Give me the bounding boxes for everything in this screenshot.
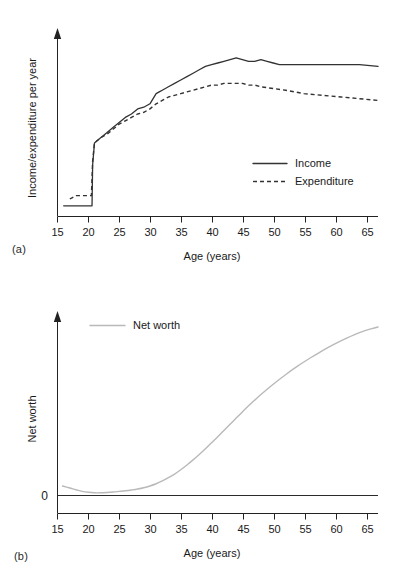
figure-container: 15 20 25 30 35 40 45 50 55 60 65 Age (ye… (0, 0, 397, 583)
x-tick-label: 35 (175, 523, 187, 535)
x-tick-label: 55 (299, 523, 311, 535)
legend-label-income: Income (295, 157, 331, 169)
chart-panel-a: 15 20 25 30 35 40 45 50 55 60 65 Age (ye… (0, 0, 397, 291)
x-tick-label: 35 (175, 226, 187, 238)
x-axis-b: 15 20 25 30 35 40 45 50 55 60 65 (51, 514, 378, 536)
x-axis-ticks-a (58, 217, 368, 223)
x-tick-label: 45 (237, 523, 249, 535)
legend-a: Income Expenditure (253, 157, 354, 187)
legend-label-networth: Net worth (133, 319, 180, 331)
x-tick-label: 20 (82, 523, 94, 535)
x-tick-label: 60 (330, 226, 342, 238)
legend-b: Net worth (90, 319, 180, 331)
chart-panel-b: 0 15 20 25 30 35 (0, 291, 397, 583)
x-tick-label: 25 (113, 523, 125, 535)
zero-tick-label: 0 (41, 489, 48, 503)
x-tick-label: 55 (299, 226, 311, 238)
x-axis-title-a: Age (years) (184, 250, 241, 262)
x-tick-label: 50 (268, 226, 280, 238)
x-tick-label: 65 (361, 523, 373, 535)
x-axis-a: 15 20 25 30 35 40 45 50 55 60 65 (51, 217, 378, 239)
y-axis-title-a: Income/expenditure per year (26, 58, 38, 198)
x-tick-label: 20 (82, 226, 94, 238)
x-axis-ticklabels-b: 15 20 25 30 35 40 45 50 55 60 65 (51, 523, 373, 535)
y-axis-title-b: Net worth (26, 395, 38, 442)
x-axis-ticklabels-a: 15 20 25 30 35 40 45 50 55 60 65 (51, 226, 373, 238)
x-tick-label: 30 (144, 226, 156, 238)
x-tick-label: 40 (206, 226, 218, 238)
x-axis-ticks-b (58, 514, 368, 520)
y-axis-a (54, 28, 61, 216)
panel-a-caption: (a) (12, 243, 26, 255)
x-tick-label: 30 (144, 523, 156, 535)
legend-label-expenditure: Expenditure (295, 175, 354, 187)
x-tick-label: 65 (361, 226, 373, 238)
x-tick-label: 50 (268, 523, 280, 535)
x-tick-label: 15 (51, 226, 63, 238)
y-axis-b (54, 311, 61, 513)
x-tick-label: 15 (51, 523, 63, 535)
y-axis-arrow-icon (54, 28, 61, 39)
x-axis-title-b: Age (years) (184, 547, 241, 559)
panel-b-caption: (b) (14, 550, 28, 562)
y-axis-arrow-icon (54, 311, 61, 322)
x-tick-label: 60 (330, 523, 342, 535)
series-line-networth (62, 327, 378, 493)
x-tick-label: 40 (206, 523, 218, 535)
x-tick-label: 25 (113, 226, 125, 238)
x-tick-label: 45 (237, 226, 249, 238)
